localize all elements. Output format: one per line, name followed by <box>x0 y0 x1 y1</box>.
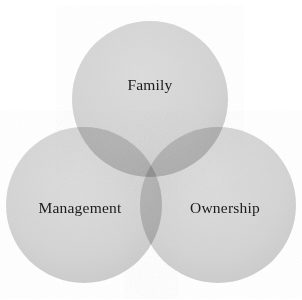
three-circle-venn-diagram: Family Management Ownership <box>0 0 302 300</box>
label-ownership: Ownership <box>190 199 260 216</box>
venn-diagram-canvas: Family Management Ownership <box>0 0 302 300</box>
label-family: Family <box>127 76 172 93</box>
label-management: Management <box>39 199 122 216</box>
